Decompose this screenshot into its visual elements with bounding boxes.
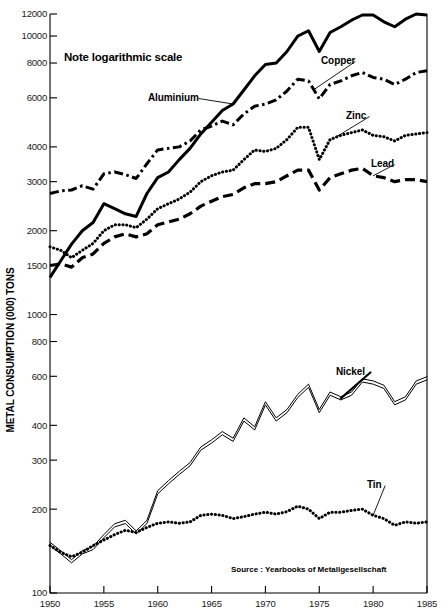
series-label-nickel: Nickel: [336, 366, 365, 377]
x-tick-label: 1950: [40, 598, 60, 609]
y-tick-label: 8000: [27, 57, 47, 68]
y-tick-label: 4000: [27, 141, 47, 152]
y-tick-label: 10000: [22, 30, 47, 41]
series-label-zinc: Zinc: [346, 110, 367, 121]
series-label-lead: Lead: [371, 158, 394, 169]
x-tick-label: 1975: [309, 598, 329, 609]
metal-consumption-chart: 1002003004006008001000150020003000400060…: [0, 0, 441, 616]
y-tick-label: 200: [32, 504, 47, 515]
y-tick-label: 1500: [27, 260, 47, 271]
x-tick-label: 1980: [363, 598, 383, 609]
y-tick-label: 6000: [27, 92, 47, 103]
x-tick-label: 1960: [148, 598, 168, 609]
y-tick-label: 300: [32, 455, 47, 466]
series-label-tin: Tin: [367, 479, 382, 490]
y-tick-label: 2000: [27, 225, 47, 236]
y-axis-title: METAL CONSUMPTION (000) TONS: [5, 267, 16, 432]
chart-svg: 1002003004006008001000150020003000400060…: [0, 0, 441, 616]
y-tick-label: 400: [32, 420, 47, 431]
source-note: Source : Yearbooks of Metallgesellschaft: [231, 565, 387, 574]
x-tick-label: 1965: [201, 598, 221, 609]
x-tick-label: 1955: [94, 598, 114, 609]
y-tick-label: 3000: [27, 176, 47, 187]
y-tick-label: 800: [32, 336, 47, 347]
series-label-aluminium: Aluminium: [148, 92, 199, 103]
x-tick-label: 1985: [417, 598, 437, 609]
log-scale-note: Note logarithmic scale: [64, 51, 182, 63]
x-tick-label: 1970: [255, 598, 275, 609]
y-tick-label: 1000: [27, 309, 47, 320]
y-tick-label: 100: [32, 587, 47, 598]
y-tick-label: 12000: [22, 8, 47, 19]
y-tick-label: 600: [32, 371, 47, 382]
chart-background: [0, 0, 441, 616]
